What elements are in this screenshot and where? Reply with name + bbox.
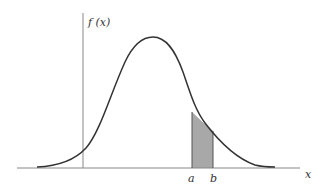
density-curve bbox=[37, 37, 275, 167]
x-axis-label: x bbox=[305, 169, 311, 180]
y-axis-label: f (x) bbox=[88, 17, 110, 28]
label-a: a bbox=[188, 173, 195, 184]
label-b: b bbox=[210, 173, 217, 184]
diagram-graphics bbox=[0, 0, 321, 191]
pdf-diagram: f (x) x a b bbox=[0, 0, 321, 191]
